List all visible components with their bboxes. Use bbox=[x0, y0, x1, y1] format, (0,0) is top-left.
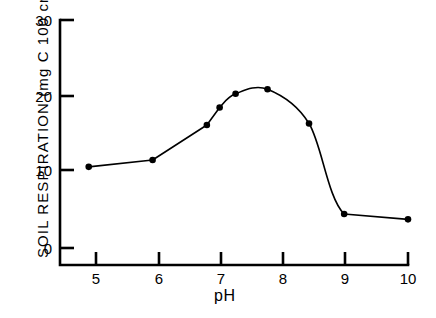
data-point-markers bbox=[85, 86, 411, 223]
x-tick-label-6: 6 bbox=[139, 271, 179, 286]
x-tick-label-5: 5 bbox=[76, 271, 116, 286]
x-axis-ticks bbox=[96, 252, 408, 265]
axis-spines bbox=[60, 20, 408, 265]
x-tick-label-9: 9 bbox=[325, 271, 365, 286]
y-axis-title: SOIL RESPIRATION (mg C 100 cm-2) bbox=[34, 8, 50, 258]
data-point-marker bbox=[204, 122, 211, 129]
y-axis-title-prefix: SOIL RESPIRATION (mg C 100 cm bbox=[34, 0, 51, 258]
x-tick-label-8: 8 bbox=[263, 271, 303, 286]
data-point-marker bbox=[232, 91, 239, 98]
data-point-marker bbox=[306, 120, 313, 127]
data-series-line bbox=[89, 87, 408, 219]
data-point-marker bbox=[264, 86, 271, 93]
x-tick-label-10: 10 bbox=[388, 271, 428, 286]
data-point-marker bbox=[85, 164, 92, 171]
x-axis-title: pH bbox=[214, 288, 235, 304]
data-point-marker bbox=[405, 216, 412, 223]
x-tick-label-7: 7 bbox=[201, 271, 241, 286]
data-point-marker bbox=[341, 211, 348, 218]
data-point-marker bbox=[149, 157, 156, 164]
data-point-marker bbox=[216, 104, 223, 111]
soil-respiration-chart: 30 20 10 0 5 6 7 8 9 10 pH SOIL RESPIRAT… bbox=[0, 0, 436, 318]
y-axis-ticks bbox=[60, 20, 74, 248]
